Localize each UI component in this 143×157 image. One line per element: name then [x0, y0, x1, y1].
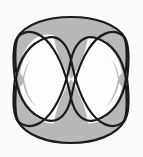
knot-figure-container: [0, 0, 143, 157]
knot-body-group: [13, 17, 128, 143]
knot-diagram-svg: [0, 0, 143, 157]
